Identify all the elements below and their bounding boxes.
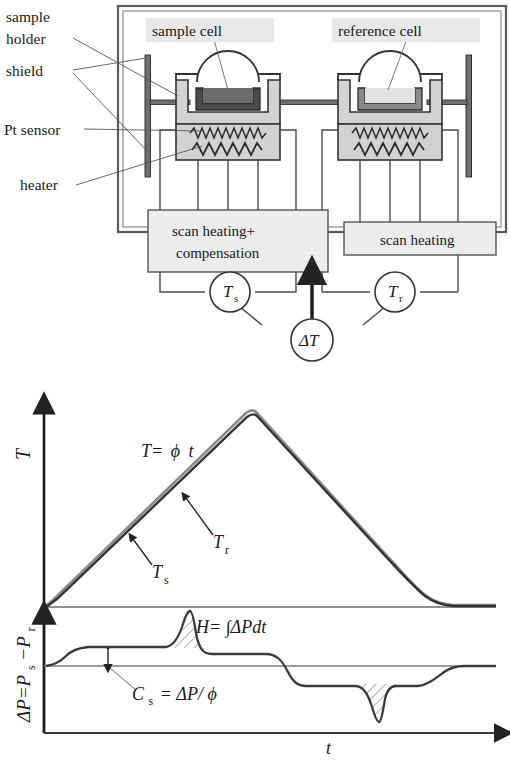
enthalpy-equation: H= ∫ΔPdt bbox=[195, 617, 267, 638]
heat-capacity-equation: C s = ΔP/ ϕ bbox=[132, 684, 217, 709]
figure-root: sample holder shield Pt sensor heater sa… bbox=[0, 0, 510, 763]
svg-text:ΔP=P s −P: ΔP=P s −P r bbox=[13, 627, 39, 723]
power-axis-sub-s: s bbox=[24, 665, 38, 670]
heat-capacity-eq-base: C bbox=[132, 684, 145, 704]
power-axis-part-delta: ΔP=P bbox=[13, 674, 34, 723]
power-difference-vs-time-chart: ΔP=P s −P r H= ∫ΔPdt C s = ΔP/ ϕ t bbox=[0, 0, 510, 763]
heat-capacity-eq-rest: = ΔP/ ϕ bbox=[160, 684, 217, 704]
power-x-axis-label: t bbox=[326, 738, 332, 758]
heat-capacity-eq-sub: s bbox=[149, 694, 154, 708]
power-axis-label: ΔP=P s −P r bbox=[13, 627, 39, 723]
power-axis-part-minus: −P bbox=[13, 636, 34, 661]
power-chart-axes bbox=[44, 622, 496, 733]
svg-text:C s = ΔP/ ϕ: C s = ΔP/ ϕ bbox=[132, 684, 217, 709]
power-axis-sub-r: r bbox=[24, 627, 38, 631]
